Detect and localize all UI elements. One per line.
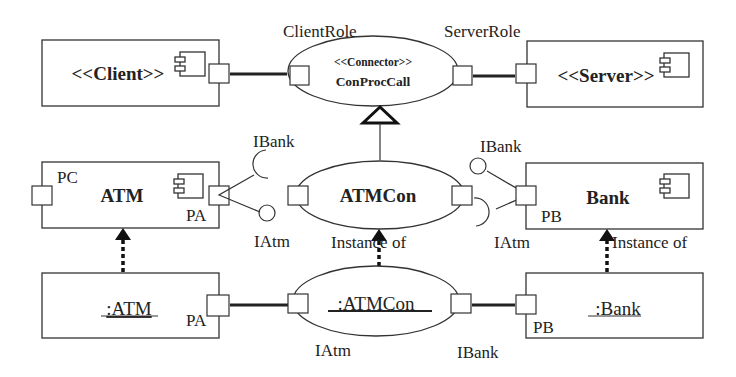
bank-port-pb[interactable] bbox=[516, 186, 536, 205]
atm-port-pc-label: PC bbox=[57, 168, 78, 187]
component-icon bbox=[660, 53, 689, 77]
client-role-label: ClientRole bbox=[283, 22, 357, 41]
client-port[interactable] bbox=[209, 64, 229, 83]
connector-conproccall[interactable]: <<Connector>> ConProcCall bbox=[288, 36, 458, 106]
atm-instance[interactable]: :ATM PA bbox=[42, 273, 219, 338]
atm-port-pa-label: PA bbox=[186, 206, 207, 225]
bank-provided-iface-label: IBank bbox=[480, 137, 522, 156]
server-component[interactable]: <<Server>> bbox=[527, 41, 703, 107]
bank-name: Bank bbox=[586, 187, 630, 208]
bank-instance[interactable]: :Bank PB bbox=[526, 273, 703, 338]
iatm-socket-icon bbox=[474, 198, 489, 226]
atm-provided-iface-label: IAtm bbox=[254, 232, 290, 251]
atm-name: ATM bbox=[101, 185, 144, 206]
atm-instance-of-arrowhead-icon bbox=[115, 228, 131, 240]
bank-instance-of-label: Instance of bbox=[612, 233, 687, 252]
client-label: <<Client>> bbox=[72, 63, 165, 84]
atmcon-name: ATMCon bbox=[340, 185, 417, 206]
bank-instance-port-label: PB bbox=[533, 318, 554, 337]
component-diagram: <<Client>> <<Connector>> ConProcCall Cli… bbox=[0, 0, 736, 377]
server-port[interactable] bbox=[516, 64, 536, 83]
generalization-arrow-icon bbox=[363, 107, 397, 123]
atm-required-iface-label: IBank bbox=[253, 132, 295, 151]
atmcon-instance-right-iface: IBank bbox=[457, 343, 499, 362]
server-role-port[interactable] bbox=[453, 66, 472, 85]
server-label: <<Server>> bbox=[557, 65, 654, 86]
atmcon-instance-of-label: Instance of bbox=[331, 233, 406, 252]
bank-required-iface-label: IAtm bbox=[494, 233, 530, 252]
component-icon bbox=[174, 174, 203, 198]
atm-port-pc[interactable] bbox=[32, 186, 52, 205]
connector-atmcon[interactable]: ATMCon bbox=[296, 161, 464, 229]
ibank-lollipop-icon bbox=[470, 158, 486, 174]
bank-component[interactable]: Bank PB bbox=[526, 163, 703, 229]
component-icon bbox=[660, 174, 689, 198]
connector-stereotype: <<Connector>> bbox=[334, 56, 412, 68]
atmcon-left-port[interactable] bbox=[288, 186, 308, 205]
atmcon-instance-left-iface: IAtm bbox=[315, 341, 351, 360]
atm-component[interactable]: ATM PC PA bbox=[42, 162, 219, 228]
bank-port-pb-label: PB bbox=[541, 207, 562, 226]
ibank-socket-icon bbox=[253, 150, 268, 178]
iatm-lollipop-icon bbox=[259, 205, 275, 221]
atmcon-instance[interactable]: :ATMCon bbox=[293, 266, 459, 336]
atm-instance-port-pa[interactable] bbox=[207, 295, 229, 316]
connector-name: ConProcCall bbox=[336, 74, 411, 89]
client-component[interactable]: <<Client>> bbox=[42, 40, 219, 106]
bank-instance-port-pb[interactable] bbox=[516, 295, 536, 314]
component-icon bbox=[175, 52, 205, 76]
atmcon-instance-right-port[interactable] bbox=[451, 294, 471, 313]
client-role-port[interactable] bbox=[290, 66, 309, 85]
atmcon-instance-left-port[interactable] bbox=[288, 294, 308, 313]
atmcon-right-port[interactable] bbox=[452, 186, 472, 205]
atm-instance-port-label: PA bbox=[186, 311, 207, 330]
server-role-label: ServerRole bbox=[444, 22, 520, 41]
